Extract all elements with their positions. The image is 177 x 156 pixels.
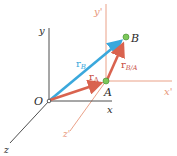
vector-r-A-subscript: A xyxy=(93,76,100,84)
vector-r-B-A-subscript: B/A xyxy=(125,64,138,72)
origin-label: O xyxy=(34,95,43,108)
z-axis xyxy=(10,101,49,143)
y-prime-label: y' xyxy=(93,6,102,17)
z-prime-label: z' xyxy=(62,129,70,139)
y-axis-label: y xyxy=(38,25,45,36)
point-B-label: B xyxy=(130,32,139,45)
x-axis-label: x xyxy=(107,104,113,115)
point-A-label: A xyxy=(103,86,112,99)
vector-r-A-label: rA xyxy=(89,71,100,84)
vector-r-A xyxy=(50,83,101,100)
vector-r-B-A-label: rB/A xyxy=(121,59,138,72)
origin-point xyxy=(47,99,51,103)
vector-r-B-subscript: B xyxy=(80,63,86,71)
z-axis-label: z xyxy=(3,145,9,155)
x-prime-label: x' xyxy=(164,86,172,97)
point-B xyxy=(123,34,129,40)
point-A xyxy=(103,78,109,84)
vector-diagram: O y x z y' x' z' A B rB rA rB/A xyxy=(0,0,177,156)
vector-r-B-label: rB xyxy=(76,58,86,71)
